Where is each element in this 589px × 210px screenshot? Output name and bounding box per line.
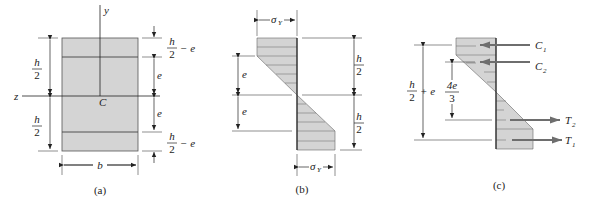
svg-text:2: 2 xyxy=(409,91,415,103)
elastoplastic-beam-figure: y z C h 2 h 2 e e h 2 − e h 2 − e xyxy=(0,0,589,210)
svg-text:1: 1 xyxy=(572,141,576,149)
svg-text:− e: − e xyxy=(180,42,195,54)
svg-text:h: h xyxy=(409,78,415,90)
svg-text:h: h xyxy=(34,113,40,125)
width-label: b xyxy=(97,159,103,171)
svg-text:2: 2 xyxy=(356,123,362,135)
svg-text:2: 2 xyxy=(169,143,175,155)
svg-text:2: 2 xyxy=(34,69,40,81)
svg-text:e: e xyxy=(242,68,247,80)
svg-text:T: T xyxy=(565,134,572,146)
svg-text:2: 2 xyxy=(169,48,175,60)
svg-text:h: h xyxy=(169,35,175,47)
caption-a: (a) xyxy=(94,184,107,197)
tension-stress-block xyxy=(297,95,335,150)
panel-c: C 1 C 2 T 2 T 1 h 2 + e 4e 3 (c) xyxy=(407,38,576,192)
svg-text:σ: σ xyxy=(310,160,316,172)
svg-text:h: h xyxy=(169,130,175,142)
svg-text:T: T xyxy=(565,114,572,126)
svg-text:1: 1 xyxy=(543,46,547,54)
svg-text:4e: 4e xyxy=(447,79,458,91)
y-axis-label: y xyxy=(103,4,109,16)
svg-text:C: C xyxy=(535,60,543,72)
svg-text:Y: Y xyxy=(317,166,322,174)
svg-text:C: C xyxy=(535,39,543,51)
panel-a: y z C h 2 h 2 e e h 2 − e h 2 − e xyxy=(13,4,195,197)
svg-text:h: h xyxy=(356,52,362,64)
svg-text:− e: − e xyxy=(180,137,195,149)
svg-text:2: 2 xyxy=(34,126,40,138)
svg-text:e: e xyxy=(157,69,162,81)
svg-text:+ e: + e xyxy=(420,85,435,97)
svg-text:σ: σ xyxy=(271,13,277,25)
z-axis-label: z xyxy=(13,90,19,102)
caption-c: (c) xyxy=(493,179,506,192)
svg-text:h: h xyxy=(356,110,362,122)
svg-text:2: 2 xyxy=(543,67,547,75)
svg-text:h: h xyxy=(34,56,40,68)
caption-b: (b) xyxy=(296,183,309,196)
svg-text:2: 2 xyxy=(572,121,576,129)
panel-b: σ Y σ Y e e h 2 h 2 (b) xyxy=(232,10,364,196)
svg-text:Y: Y xyxy=(278,19,283,27)
svg-text:2: 2 xyxy=(356,65,362,77)
svg-text:e: e xyxy=(157,107,162,119)
svg-text:e: e xyxy=(242,105,247,117)
compression-stress-block xyxy=(257,38,297,95)
svg-text:3: 3 xyxy=(449,92,455,104)
centroid-label: C xyxy=(99,96,107,108)
